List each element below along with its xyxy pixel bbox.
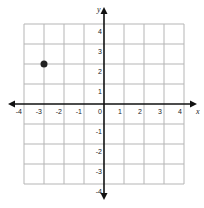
x-tick-label: -3 xyxy=(36,108,42,115)
y-tick-label: 2 xyxy=(98,68,102,75)
x-tick-label: -1 xyxy=(76,108,82,115)
x-tick-label: 2 xyxy=(138,108,142,115)
y-tick-label: 1 xyxy=(98,88,102,95)
axes: x y xyxy=(8,5,200,200)
y-tick-label: -1 xyxy=(96,128,102,135)
coordinate-plane: x y -4-3-2-1012344321-1-2-3-4 xyxy=(0,0,204,208)
x-axis-label: x xyxy=(195,107,200,116)
x-tick-label: 0 xyxy=(98,108,102,115)
y-tick-label: 3 xyxy=(98,48,102,55)
x-tick-label: -2 xyxy=(56,108,62,115)
y-tick-label: -2 xyxy=(96,148,102,155)
y-axis-up-arrow-icon xyxy=(101,7,108,14)
y-axis-label: y xyxy=(96,5,101,14)
y-tick-label: -4 xyxy=(96,188,102,195)
x-axis-left-arrow-icon xyxy=(8,101,15,108)
data-points xyxy=(41,61,48,68)
x-tick-label: -4 xyxy=(16,108,22,115)
x-tick-label: 4 xyxy=(178,108,182,115)
data-point xyxy=(41,61,48,68)
x-tick-label: 1 xyxy=(118,108,122,115)
tick-labels: -4-3-2-1012344321-1-2-3-4 xyxy=(16,28,182,195)
x-tick-label: 3 xyxy=(158,108,162,115)
y-tick-label: -3 xyxy=(96,168,102,175)
y-tick-label: 4 xyxy=(98,28,102,35)
